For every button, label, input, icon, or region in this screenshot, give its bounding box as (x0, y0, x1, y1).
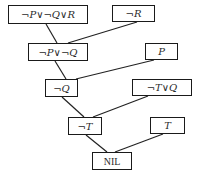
clause-not-p-or-not-q-or-r: ¬P∨¬Q∨R (8, 5, 88, 24)
clause-label: ¬Q (53, 83, 70, 94)
clause-not-r: ¬R (112, 5, 155, 22)
clause-label: P (158, 46, 165, 57)
clause-label: ¬P∨¬Q∨R (21, 9, 75, 20)
clause-label: T (164, 120, 171, 131)
clause-label: NIL (104, 156, 121, 167)
resolution-tree-diagram: ¬P∨¬Q∨R ¬R ¬P∨¬Q P ¬Q ¬T∨Q ¬T T NIL (0, 0, 201, 180)
edge-n3-n5 (55, 61, 66, 79)
clause-not-t: ¬T (68, 117, 102, 135)
edge-n8-n9 (115, 134, 163, 152)
clause-nil: NIL (92, 152, 132, 170)
clause-not-q: ¬Q (45, 79, 78, 97)
clause-label: ¬T (77, 121, 92, 132)
clause-label: ¬R (126, 8, 142, 19)
edge-n4-n5 (76, 60, 154, 79)
clause-label: ¬P∨¬Q (38, 47, 77, 58)
edge-n2-n3 (68, 22, 137, 43)
clause-label: ¬T∨Q (147, 82, 178, 93)
clause-t: T (150, 117, 185, 134)
edge-n1-n3 (46, 24, 57, 43)
edge-n7-n9 (86, 135, 107, 152)
edge-n5-n7 (62, 97, 84, 117)
clause-p: P (145, 43, 178, 60)
edge-n6-n7 (93, 96, 148, 117)
clause-not-t-or-q: ¬T∨Q (132, 79, 192, 96)
clause-not-p-or-not-q: ¬P∨¬Q (28, 43, 88, 61)
